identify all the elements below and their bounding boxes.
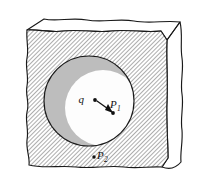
point-P1-subscript: 1 <box>117 104 121 113</box>
figure-container: q P 1 P 2 <box>0 0 203 188</box>
charge-q-label: q <box>79 93 85 105</box>
point-P1-dot <box>111 111 115 115</box>
block-with-spherical-cavity-figure: q P 1 P 2 <box>0 0 203 188</box>
point-P2-subscript: 2 <box>104 155 108 164</box>
point-P1-letter: P <box>109 98 117 110</box>
point-P2-letter: P <box>96 149 104 161</box>
charge-q-dot <box>93 98 97 102</box>
point-P2-dot <box>92 155 95 158</box>
